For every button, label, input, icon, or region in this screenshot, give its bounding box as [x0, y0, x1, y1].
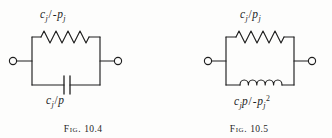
capacitor-label-10-4: cj/p — [46, 95, 64, 109]
right-terminal-node — [308, 57, 315, 64]
resistor-zigzag — [236, 31, 284, 43]
left-terminal-node — [9, 57, 16, 64]
figure-caption-10-5: Fig.10.5 — [166, 124, 332, 134]
figure-caption-10-4: Fig.10.4 — [0, 124, 166, 134]
figure-10-5: cj/pj cjp/-pj2 Fig.10.5 — [166, 0, 332, 138]
left-terminal-node — [204, 57, 211, 64]
inductor-coil — [240, 80, 282, 85]
figure-sheet: cj/-pj cj/p Fig.10.4 — [0, 0, 332, 138]
circuit-diagram-10-4 — [0, 0, 166, 118]
resistor-zigzag — [41, 31, 89, 43]
resistor-label-10-5: cj/pj — [240, 9, 261, 23]
inductor-label-10-5: cjp/-pj2 — [234, 95, 270, 110]
resistor-label-10-4: cj/-pj — [40, 9, 66, 23]
figure-10-4: cj/-pj cj/p Fig.10.4 — [0, 0, 166, 138]
right-terminal-node — [114, 57, 121, 64]
